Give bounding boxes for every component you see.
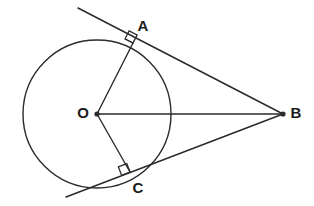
geometry-figure: OABC — [0, 0, 314, 206]
point-label-b: B — [291, 104, 302, 121]
point-label-a: A — [138, 17, 149, 34]
vertex-dot-b — [280, 111, 285, 116]
geometry-canvas: OABC — [0, 0, 314, 206]
point-label-c: C — [133, 179, 144, 196]
point-label-o: O — [77, 104, 89, 121]
figure-background — [0, 0, 314, 206]
vertex-dot-o — [94, 111, 99, 116]
